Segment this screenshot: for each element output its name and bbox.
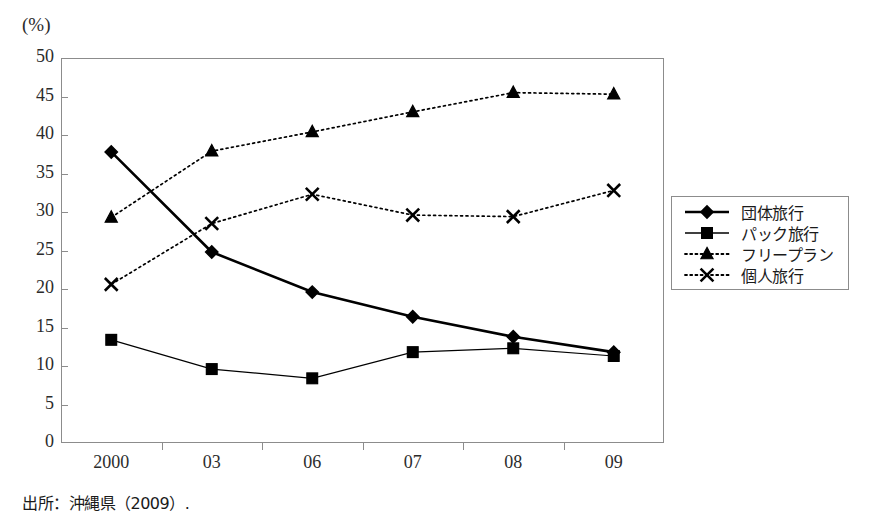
legend-item-label: 個人旅行 — [741, 263, 803, 287]
y-axis-tick-mark — [61, 405, 68, 406]
data-point-diamond — [701, 205, 713, 217]
plot-area-frame — [61, 58, 664, 443]
legend-item-3: 個人旅行 — [672, 264, 848, 285]
y-axis-tick-mark — [61, 328, 68, 329]
y-axis-tick-mark — [61, 366, 68, 367]
y-axis-tick-mark — [61, 289, 68, 290]
legend-item-2: フリープラン — [672, 243, 848, 264]
y-axis-tick-mark — [61, 97, 68, 98]
x-axis-tick-label: 03 — [203, 452, 221, 473]
x-axis-tick-label: 2000 — [93, 452, 129, 473]
legend-marker-cross-icon — [679, 266, 735, 284]
y-axis-tick-mark — [61, 174, 68, 175]
chart-legend: 団体旅行パック旅行フリープラン個人旅行 — [671, 196, 849, 290]
x-axis-tick-label: 09 — [605, 452, 623, 473]
y-axis-tick-label: 40 — [8, 123, 54, 144]
y-axis-tick-label: 10 — [8, 354, 54, 375]
y-axis-tick-mark — [61, 135, 68, 136]
x-axis-tick-mark — [463, 443, 464, 450]
y-axis-tick-label: 35 — [8, 162, 54, 183]
legend-item-1: パック旅行 — [672, 222, 848, 243]
y-axis-tick-label: 50 — [8, 46, 54, 67]
y-axis-unit-label: (%) — [22, 14, 50, 36]
chart-figure: (%) 50454035302520151050 20000306070809 … — [0, 0, 878, 531]
y-axis-tick-label: 45 — [8, 85, 54, 106]
legend-marker-square-icon — [679, 224, 735, 242]
y-axis-tick-label: 25 — [8, 239, 54, 260]
source-note: 出所：沖縄県（2009）. — [22, 490, 189, 514]
y-axis-tick-label: 5 — [8, 393, 54, 414]
y-axis-tick-mark — [61, 212, 68, 213]
y-axis-tick-mark — [61, 251, 68, 252]
x-axis-tick-label: 06 — [303, 452, 321, 473]
x-axis-tick-mark — [363, 443, 364, 450]
x-axis-tick-mark — [564, 443, 565, 450]
y-axis-tick-label: 0 — [8, 431, 54, 452]
y-axis-tick-label: 30 — [8, 200, 54, 221]
x-axis-tick-label: 08 — [504, 452, 522, 473]
y-axis-tick-label: 15 — [8, 316, 54, 337]
data-point-triangle — [701, 247, 713, 258]
legend-item-0: 団体旅行 — [672, 201, 848, 222]
legend-marker-triangle-icon — [679, 245, 735, 263]
data-point-square — [702, 227, 713, 238]
legend-marker-diamond-icon — [679, 203, 735, 221]
x-axis-tick-label: 07 — [404, 452, 422, 473]
x-axis-tick-mark — [262, 443, 263, 450]
y-axis-tick-label: 20 — [8, 277, 54, 298]
x-axis-tick-mark — [162, 443, 163, 450]
